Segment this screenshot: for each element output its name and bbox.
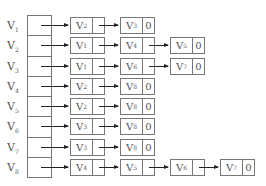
vertex-subscript: 1	[83, 63, 87, 70]
node-next-pointer: 0	[142, 18, 154, 33]
vertex-name: V	[126, 142, 133, 153]
vertex-name: V	[7, 141, 15, 154]
vertex-subscript: 4	[15, 87, 19, 94]
node-next-pointer: 0	[242, 160, 254, 175]
node-data: V8	[121, 119, 142, 134]
arrow-icon	[41, 66, 68, 67]
arrow-icon	[99, 25, 118, 26]
node-data: V4	[121, 38, 142, 53]
vertex-subscript: 2	[83, 83, 87, 90]
arrow-icon	[99, 106, 118, 107]
vertex-name: V	[76, 61, 83, 72]
vertex-label: V2	[7, 40, 19, 55]
vertex-subscript: 5	[133, 164, 137, 171]
adjacency-node: V80	[120, 78, 155, 95]
vertex-subscript: 7	[233, 164, 237, 171]
node-data: V3	[121, 18, 142, 33]
vertex-subscript: 4	[83, 164, 87, 171]
adjacency-node: V50	[170, 37, 205, 54]
vertex-subscript: 8	[133, 103, 137, 110]
vertex-name: V	[76, 142, 83, 153]
node-data: V2	[71, 18, 92, 33]
vertex-name: V	[7, 100, 15, 113]
arrow-icon	[41, 167, 68, 168]
vertex-subscript: 3	[133, 22, 137, 29]
vertex-name: V	[7, 161, 15, 174]
vertex-name: V	[126, 61, 133, 72]
node-next-pointer: 0	[142, 140, 154, 155]
node-data: V6	[121, 59, 142, 74]
node-data: V8	[121, 99, 142, 114]
node-data: V4	[71, 160, 92, 175]
vertex-label: V3	[7, 61, 19, 76]
vertex-name: V	[7, 39, 15, 52]
node-data: V2	[71, 79, 92, 94]
vertex-subscript: 3	[83, 123, 87, 130]
node-data: V5	[121, 160, 142, 175]
vertex-subscript: 1	[15, 26, 19, 33]
node-data: V3	[71, 119, 92, 134]
vertex-name: V	[76, 40, 83, 51]
vertex-subscript: 5	[15, 107, 19, 114]
node-next-pointer: 0	[142, 119, 154, 134]
arrow-icon	[99, 167, 118, 168]
vertex-name: V	[126, 20, 133, 31]
adjacency-node: V80	[120, 98, 155, 115]
arrow-icon	[99, 147, 118, 148]
adjacency-node: V70	[170, 58, 205, 75]
adjacency-node: V70	[220, 159, 255, 176]
vertex-subscript: 8	[15, 168, 19, 175]
vertex-subscript: 2	[83, 22, 87, 29]
vertex-name: V	[176, 40, 183, 51]
vertex-name: V	[76, 20, 83, 31]
arrow-icon	[149, 66, 168, 67]
vertex-name: V	[7, 60, 15, 73]
vertex-name: V	[126, 40, 133, 51]
arrow-icon	[99, 126, 118, 127]
vertex-label: V5	[7, 101, 19, 116]
arrow-icon	[41, 106, 68, 107]
node-data: V3	[71, 140, 92, 155]
vertex-label: V6	[7, 121, 19, 136]
node-data: V2	[71, 99, 92, 114]
node-data: V1	[71, 38, 92, 53]
vertex-subscript: 8	[133, 83, 137, 90]
vertex-name: V	[76, 101, 83, 112]
vertex-subscript: 6	[133, 63, 137, 70]
vertex-name: V	[226, 162, 233, 173]
vertex-label: V8	[7, 162, 19, 177]
arrow-icon	[199, 167, 218, 168]
node-data: V7	[221, 160, 242, 175]
adjacency-node: V30	[120, 17, 155, 34]
node-next-pointer: 0	[192, 59, 204, 74]
node-data: V8	[121, 140, 142, 155]
vertex-name: V	[76, 81, 83, 92]
vertex-subscript: 5	[183, 42, 187, 49]
arrow-icon	[41, 126, 68, 127]
arrow-icon	[149, 167, 168, 168]
vertex-subscript: 6	[183, 164, 187, 171]
vertex-name: V	[7, 80, 15, 93]
vertex-name: V	[126, 162, 133, 173]
node-data: V8	[121, 79, 142, 94]
vertex-label: V1	[7, 20, 19, 35]
vertex-subscript: 6	[15, 127, 19, 134]
arrow-icon	[149, 45, 168, 46]
vertex-label: V4	[7, 81, 19, 96]
arrow-icon	[99, 86, 118, 87]
vertex-subscript: 7	[15, 148, 19, 155]
adjacency-node: V80	[120, 139, 155, 156]
adjacency-node: V80	[120, 118, 155, 135]
vertex-name: V	[76, 121, 83, 132]
node-data: V1	[71, 59, 92, 74]
node-next-pointer: 0	[142, 79, 154, 94]
node-data: V6	[171, 160, 192, 175]
vertex-name: V	[176, 162, 183, 173]
arrow-icon	[41, 147, 68, 148]
vertex-label: V7	[7, 142, 19, 157]
vertex-name: V	[7, 19, 15, 32]
vertex-name: V	[126, 101, 133, 112]
vertex-name: V	[126, 121, 133, 132]
vertex-subscript: 3	[83, 144, 87, 151]
vertex-name: V	[176, 61, 183, 72]
